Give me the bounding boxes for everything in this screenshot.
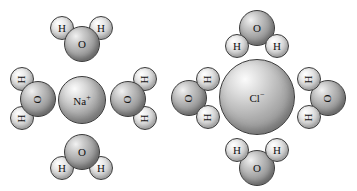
chloride-unit-water-left-hydrogen-1: H: [196, 67, 220, 91]
chloride-unit-water-left-hydrogen-1-label: H: [202, 75, 213, 83]
chloride-unit-water-right-hydrogen-2: H: [297, 105, 321, 129]
sodium-unit-water-bottom-hydrogen-1-label: H: [58, 163, 66, 174]
sodium-unit-water-right-hydrogen-1-label: H: [139, 75, 150, 83]
chloride-unit-water-left-oxygen-label: O: [183, 94, 194, 102]
chloride-unit-chloride-ion: Cl−: [219, 59, 295, 135]
sodium-unit-water-bottom-hydrogen-2-label: H: [97, 163, 105, 174]
chloride-unit-water-bottom-hydrogen-2-label: H: [273, 145, 281, 156]
chloride-unit-chloride-ion-label: Cl−: [250, 91, 265, 104]
sodium-unit-water-top-oxygen: O: [64, 26, 100, 62]
sodium-unit-water-top-hydrogen-1-label: H: [58, 23, 66, 34]
sodium-unit-water-left-hydrogen-1-label: H: [16, 75, 27, 83]
chloride-unit-water-left-hydrogen-2-label: H: [202, 113, 213, 121]
chloride-unit-water-right-oxygen-label: O: [322, 94, 333, 102]
chloride-unit-water-bottom-hydrogen-1: H: [225, 138, 249, 162]
sodium-unit-water-left-oxygen: O: [20, 81, 56, 117]
chloride-unit-water-top-hydrogen-2-label: H: [273, 41, 281, 52]
sodium-unit-water-bottom-oxygen-label: O: [78, 147, 86, 158]
chloride-unit-water-bottom-hydrogen-1-label: H: [233, 145, 241, 156]
chloride-unit-water-bottom-hydrogen-2: H: [265, 138, 289, 162]
sodium-unit-sodium-ion: Na+: [58, 76, 106, 124]
chloride-unit-water-bottom-oxygen-label: O: [253, 163, 261, 174]
sodium-unit-water-left-hydrogen-2-label: H: [16, 114, 27, 122]
chloride-unit-water-top-hydrogen-2: H: [265, 34, 289, 58]
sodium-unit-water-top-oxygen-label: O: [78, 39, 86, 50]
chloride-unit-water-right-hydrogen-2-label: H: [303, 113, 314, 121]
sodium-unit-water-right-oxygen-label: O: [122, 95, 133, 103]
sodium-unit-sodium-ion-label: Na+: [73, 94, 90, 107]
chloride-unit-water-right-hydrogen-1: H: [297, 67, 321, 91]
sodium-unit-water-bottom-oxygen: O: [64, 134, 100, 170]
sodium-unit-water-top-hydrogen-2-label: H: [97, 23, 105, 34]
sodium-unit-water-right-hydrogen-2-label: H: [139, 114, 150, 122]
chloride-unit-water-top-oxygen-label: O: [253, 23, 261, 34]
chloride-unit-water-top-hydrogen-1-label: H: [233, 41, 241, 52]
sodium-unit-water-right-oxygen: O: [110, 81, 146, 117]
chloride-unit-water-left-hydrogen-2: H: [196, 105, 220, 129]
chloride-unit-water-right-hydrogen-1-label: H: [303, 75, 314, 83]
sodium-unit-water-left-oxygen-label: O: [32, 95, 43, 103]
chloride-unit-water-top-hydrogen-1: H: [225, 34, 249, 58]
hydration-diagram: HHOHHOHHOHHONa+OHHOHHOHHOHHCl−: [0, 0, 357, 191]
